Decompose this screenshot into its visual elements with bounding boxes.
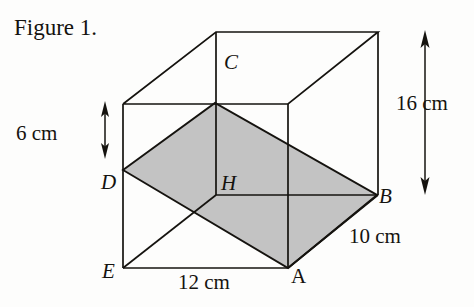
dimension-label-10cm: 10 cm xyxy=(349,226,401,247)
vertex-label-e: E xyxy=(102,261,115,282)
dimension-label-12cm: 12 cm xyxy=(178,272,230,293)
vertex-label-d: D xyxy=(101,172,116,193)
figure-container: Figure 1. C D H B E A 16 cm 6 cm 10 cm 1… xyxy=(0,0,474,307)
cuboid-top-face-edges xyxy=(123,32,378,104)
dimension-label-16cm: 16 cm xyxy=(396,93,448,114)
vertex-label-b: B xyxy=(379,186,392,207)
geometry-drawing xyxy=(0,0,474,307)
cuboid-edge-bottom-left-diagonal xyxy=(123,195,216,268)
figure-caption: Figure 1. xyxy=(14,16,97,39)
vertex-label-c: C xyxy=(224,52,238,73)
dimension-label-6cm: 6 cm xyxy=(16,123,57,144)
dimension-arrow-6cm xyxy=(101,101,109,159)
vertex-label-h: H xyxy=(221,173,236,194)
vertex-label-a: A xyxy=(291,266,306,287)
shaded-cross-section xyxy=(123,103,377,268)
